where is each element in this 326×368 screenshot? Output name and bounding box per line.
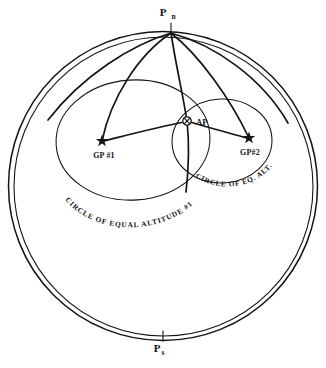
diagram-canvas: P n P s GP #1 GP#2 AP CIRCLE OF EQUAL AL… [0, 0, 326, 368]
ap-label: AP [196, 117, 207, 127]
gp2-label: GP#2 [240, 148, 260, 157]
north-pole-label-group: P n [160, 6, 177, 21]
circle2-curved-label: CIRCLE OF EQ. ALT. #2 [0, 0, 275, 189]
south-pole-subscript: s [162, 348, 165, 357]
gp1-label: GP #1 [93, 151, 115, 160]
south-pole-label: P [154, 342, 161, 354]
earth-outer-circle [9, 32, 318, 341]
north-pole-label: P [160, 6, 167, 18]
celestial-navigation-diagram: P n P s GP #1 GP#2 AP CIRCLE OF EQUAL AL… [0, 0, 326, 368]
ap-marker [183, 117, 191, 125]
earth-outline-group [9, 32, 318, 341]
meridian-left-flank [48, 33, 171, 120]
south-pole-label-group: P s [154, 342, 165, 357]
north-pole-subscript: n [172, 12, 177, 21]
circle-of-equal-altitude-1 [52, 75, 214, 205]
meridian-to-gp1 [102, 33, 171, 141]
earth-inner-circle [14, 37, 313, 336]
meridian-arcs-group [48, 33, 288, 192]
circle2-textpath: CIRCLE OF EQ. ALT. #2 [0, 0, 275, 189]
